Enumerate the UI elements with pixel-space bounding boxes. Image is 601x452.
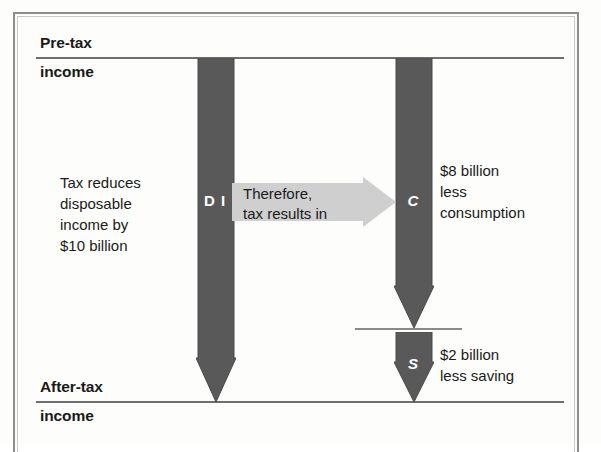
after-tax-label-line1: After-tax (40, 378, 103, 396)
pre-tax-label-line1: Pre-tax (40, 34, 92, 52)
disposable-income-bar-label: D I (196, 192, 234, 209)
left-annotation-text: Tax reduces disposable income by $10 bil… (60, 172, 205, 256)
after-tax-label-line2: income (40, 407, 94, 425)
consumption-annotation-text: $8 billion less consumption (440, 160, 580, 223)
saving-annotation-text: $2 billion less saving (440, 344, 580, 386)
saving-bar-label: S (394, 355, 432, 372)
pre-tax-income-line (36, 57, 564, 59)
therefore-banner-text: Therefore, tax results in (243, 184, 327, 224)
after-tax-income-line (36, 401, 564, 403)
disposable-income-arrow (196, 58, 236, 404)
consumption-bar-label: C (394, 192, 432, 209)
pre-tax-label-line2: income (40, 63, 94, 81)
